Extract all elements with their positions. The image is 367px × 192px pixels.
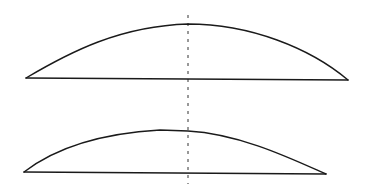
- upper-arc: [26, 24, 348, 80]
- lower-segment: [24, 130, 326, 174]
- lower-chord: [24, 172, 326, 174]
- lower-arc: [24, 130, 326, 174]
- lens-segments-diagram: [0, 0, 367, 192]
- upper-segment: [26, 24, 348, 80]
- upper-chord: [26, 78, 348, 80]
